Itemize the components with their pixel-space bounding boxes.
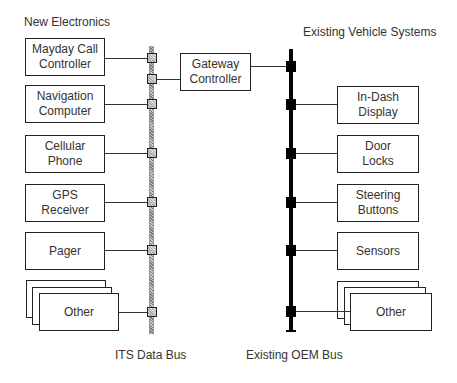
- box-label-line2: Controller: [32, 57, 98, 72]
- oem-connector: [286, 148, 296, 159]
- its-connector: [147, 53, 157, 63]
- box-label-line1: Steering: [356, 188, 401, 203]
- wire-its-to-gateway: [157, 79, 180, 80]
- its-connector: [147, 197, 157, 207]
- wire-oem-to-sensors: [296, 250, 337, 251]
- box-label-line1: Sensors: [356, 244, 400, 259]
- box-label-line2: Display: [357, 105, 399, 120]
- mayday-call-controller-box: Mayday CallController: [25, 38, 105, 76]
- wire-oem-to-indash: [296, 104, 337, 105]
- oem-connector: [286, 197, 296, 208]
- wire-gps-to-its: [105, 202, 147, 203]
- box-label-line2: Phone: [45, 154, 86, 169]
- wire-navigation-to-its: [105, 104, 147, 105]
- box-label-line1: Other: [64, 305, 94, 320]
- its-connector: [147, 307, 157, 317]
- oem-connector: [286, 306, 296, 317]
- its-connector: [147, 148, 157, 158]
- box-label-line2: Receiver: [41, 203, 88, 218]
- its-data-bus-label: ITS Data Bus: [115, 348, 186, 362]
- existing-oem-bus: [289, 49, 293, 331]
- other-right-box: Other: [350, 293, 432, 331]
- gps-receiver-box: GPSReceiver: [25, 184, 105, 222]
- oem-connector: [286, 245, 296, 256]
- wire-gateway-to-oem: [251, 66, 286, 67]
- navigation-computer-box: NavigationComputer: [25, 85, 105, 123]
- cellular-phone-box: CellularPhone: [25, 135, 105, 173]
- box-label-line1: Door: [362, 139, 393, 154]
- wire-other-to-its: [119, 312, 147, 313]
- box-label-line1: Other: [376, 305, 406, 320]
- wire-pager-to-its: [105, 250, 147, 251]
- oem-bus-end-cap: [286, 330, 296, 332]
- heading-new-electronics: New Electronics: [24, 15, 110, 29]
- its-connector: [147, 99, 157, 109]
- in-dash-display-box: In-DashDisplay: [337, 86, 419, 124]
- box-label-line1: Pager: [49, 244, 81, 259]
- existing-oem-bus-label: Existing OEM Bus: [246, 348, 343, 362]
- gateway-controller-box: GatewayController: [180, 53, 251, 91]
- its-data-bus: [149, 46, 154, 334]
- oem-connector: [286, 99, 296, 110]
- sensors-box: Sensors: [337, 232, 419, 270]
- heading-existing-vehicle-systems: Existing Vehicle Systems: [303, 25, 436, 39]
- steering-buttons-box: SteeringButtons: [337, 184, 419, 222]
- box-label-line2: Computer: [37, 104, 94, 119]
- box-label-line1: Cellular: [45, 139, 86, 154]
- box-label-line1: Mayday Call: [32, 42, 98, 57]
- box-label-line1: GPS: [41, 188, 88, 203]
- oem-connector-gateway: [286, 61, 296, 72]
- its-connector: [147, 245, 157, 255]
- pager-box: Pager: [25, 232, 105, 270]
- box-label-line1: In-Dash: [357, 90, 399, 105]
- wire-mayday-to-its: [105, 58, 147, 59]
- box-label-line2: Buttons: [356, 203, 401, 218]
- box-label-line2: Locks: [362, 154, 393, 169]
- box-label-line1: Gateway: [189, 57, 241, 72]
- wire-oem-to-steering: [296, 202, 337, 203]
- wire-cellular-to-its: [105, 153, 147, 154]
- box-label-line2: Controller: [189, 72, 241, 87]
- its-connector-gateway: [147, 74, 157, 84]
- door-locks-box: DoorLocks: [337, 135, 419, 173]
- wire-oem-to-doorlocks: [296, 153, 337, 154]
- other-left-box: Other: [39, 293, 119, 331]
- box-label-line1: Navigation: [37, 89, 94, 104]
- wire-oem-to-other: [296, 311, 350, 312]
